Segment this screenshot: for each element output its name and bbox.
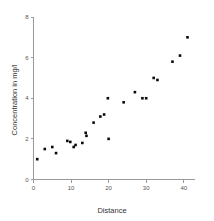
x-axis-title: Distance	[97, 206, 126, 215]
chart-canvas: 02468 010203040 Distance Concentration i…	[0, 0, 214, 221]
data-point	[43, 148, 46, 151]
data-point	[66, 140, 69, 143]
data-point	[85, 135, 88, 138]
data-point	[107, 97, 110, 100]
data-point	[141, 97, 144, 100]
data-point	[103, 113, 106, 116]
x-tick-label: 40	[180, 185, 187, 191]
x-tick-label: 10	[68, 185, 75, 191]
data-point	[51, 146, 54, 149]
y-tick-label: 0	[25, 177, 29, 183]
y-tick-label: 2	[25, 136, 29, 142]
data-point	[134, 91, 137, 94]
data-point	[81, 142, 84, 145]
x-axis: 010203040	[32, 180, 195, 191]
scatter-chart: 02468 010203040 Distance Concentration i…	[0, 0, 214, 221]
data-point	[107, 138, 110, 141]
y-axis-title: Concentration in mg/l	[10, 64, 19, 135]
data-point	[171, 60, 174, 63]
y-tick-label: 8	[25, 14, 29, 20]
data-point	[186, 36, 189, 39]
x-tick-label: 0	[32, 185, 36, 191]
data-point	[84, 131, 87, 134]
y-tick-label: 4	[25, 95, 29, 101]
data-point	[145, 97, 148, 100]
data-point	[122, 101, 125, 104]
data-point	[152, 77, 155, 80]
data-point	[179, 54, 182, 57]
x-tick-label: 20	[105, 185, 112, 191]
data-point	[69, 141, 72, 144]
data-point	[92, 121, 95, 124]
data-point	[156, 79, 159, 82]
y-tick-label: 6	[25, 55, 29, 61]
y-axis: 02468	[25, 14, 33, 183]
data-point	[55, 152, 58, 155]
data-point	[74, 144, 77, 147]
x-tick-label: 30	[143, 185, 150, 191]
data-point	[36, 158, 39, 161]
data-point	[99, 115, 102, 118]
data-point-series	[36, 36, 189, 160]
